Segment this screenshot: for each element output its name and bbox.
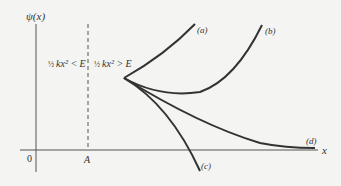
curve-a	[124, 24, 195, 78]
curve-b-label: (b)	[265, 26, 276, 36]
region-left-label: kx² < E	[56, 58, 86, 69]
region-right-frac: ½	[94, 60, 100, 69]
region-left-frac: ½	[48, 60, 54, 69]
turning-point-label: A	[83, 154, 91, 165]
curve-a-label: (a)	[197, 25, 208, 35]
origin-label: 0	[27, 153, 32, 164]
wavefunction-diagram: ψ(x) x 0 A ½ kx² < E ½ kx² > E (a) (b) (…	[0, 0, 341, 186]
region-right-label: kx² > E	[102, 58, 132, 69]
curve-c-label: (c)	[201, 161, 211, 171]
y-axis-label: ψ(x)	[26, 10, 45, 23]
curve-b	[124, 25, 262, 93]
curve-d	[124, 78, 315, 148]
curve-d-label: (d)	[306, 136, 317, 146]
x-axis-label: x	[321, 144, 327, 156]
